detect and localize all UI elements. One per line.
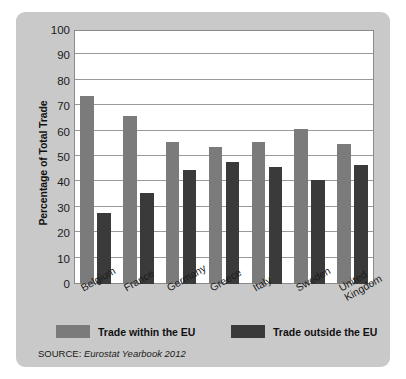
y-axis-tick-label: 70	[30, 100, 70, 112]
bar-within-eu	[294, 129, 308, 284]
source-value: Eurostat Yearbook 2012	[84, 348, 186, 359]
y-axis-tick-label: 100	[30, 24, 70, 36]
bar-within-eu	[166, 142, 180, 284]
y-axis-tick-label: 90	[30, 49, 70, 61]
bar-group	[331, 30, 374, 284]
y-axis-tick-label: 50	[30, 151, 70, 163]
plot-wrapper	[74, 30, 374, 284]
bar-group	[160, 30, 203, 284]
source-note: SOURCE: Eurostat Yearbook 2012	[38, 348, 186, 359]
bar-within-eu	[123, 116, 137, 284]
legend-swatch-within-eu	[56, 325, 90, 338]
x-axis-category-labels: BelgiumFranceGermanyGreeceItalySwedenUni…	[74, 284, 374, 328]
legend-item[interactable]: Trade within the EU	[56, 325, 195, 338]
y-axis-tick-label: 20	[30, 227, 70, 239]
legend-label: Trade outside the EU	[273, 326, 377, 338]
bar-within-eu	[252, 142, 266, 284]
bar-group	[74, 30, 117, 284]
y-axis-tick-label: 80	[30, 75, 70, 87]
bar-within-eu	[209, 147, 223, 284]
y-axis-tick-labels: 0102030405060708090100	[24, 30, 70, 284]
y-axis-tick-label: 0	[30, 278, 70, 290]
chart-figure: Percentage of Total Trade 01020304050607…	[16, 12, 390, 367]
y-axis-tick-label: 30	[30, 202, 70, 214]
y-axis-tick-label: 60	[30, 126, 70, 138]
bar-group	[245, 30, 288, 284]
chart-legend: Trade within the EUTrade outside the EU	[56, 325, 376, 345]
bar-outside-eu	[269, 167, 283, 284]
legend-label: Trade within the EU	[98, 326, 195, 338]
bar-series-container	[74, 30, 374, 284]
y-axis-tick-label: 40	[30, 176, 70, 188]
bar-group	[203, 30, 246, 284]
source-label: SOURCE:	[38, 348, 81, 359]
bar-within-eu	[80, 96, 94, 284]
y-axis-tick-label: 10	[30, 253, 70, 265]
legend-swatch-outside-eu	[231, 325, 265, 338]
legend-item[interactable]: Trade outside the EU	[231, 325, 377, 338]
bar-within-eu	[337, 144, 351, 284]
bar-group	[288, 30, 331, 284]
bar-group	[117, 30, 160, 284]
